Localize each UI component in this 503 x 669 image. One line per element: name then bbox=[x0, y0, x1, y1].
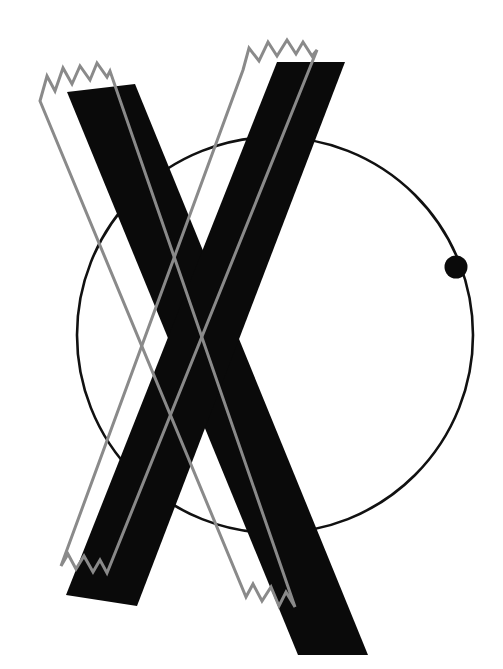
composition-svg bbox=[0, 0, 503, 669]
artwork-canvas: Abstract Geometric Composition bbox=[0, 0, 503, 669]
solid-dot-on-circle bbox=[445, 256, 468, 279]
